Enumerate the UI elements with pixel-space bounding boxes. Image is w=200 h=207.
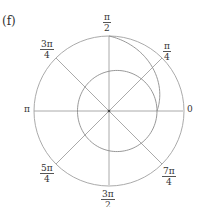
label-3pi-over-2: 3π 2	[101, 189, 115, 207]
label-0: 0	[187, 104, 193, 114]
label-7pi-over-4: 7π 4	[162, 166, 176, 187]
label-pi-over-2: π 2	[103, 12, 111, 33]
origin-point	[108, 110, 111, 113]
label-5pi-over-4: 5π 4	[40, 163, 54, 184]
label-pi-over-4: π 4	[163, 41, 171, 62]
label-pi: π	[24, 104, 30, 114]
spiral-curve	[109, 36, 160, 111]
label-3pi-over-4: 3π 4	[40, 39, 54, 60]
